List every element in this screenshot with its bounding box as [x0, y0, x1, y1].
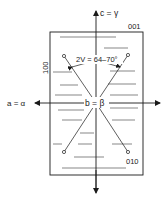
- optic-angle-label: 2V = 64–70°: [76, 55, 118, 64]
- face-010-label: 010: [126, 157, 139, 166]
- optical-orientation-diagram: c = γ 001 2V = 64–70° 100 a = α b = β 01…: [0, 0, 168, 201]
- face-100-label: 100: [41, 61, 50, 74]
- b-axis-label: b = β: [85, 98, 104, 108]
- a-axis-label: a = α: [7, 99, 26, 108]
- face-001-label: 001: [128, 22, 141, 31]
- c-axis-label: c = γ: [100, 8, 119, 18]
